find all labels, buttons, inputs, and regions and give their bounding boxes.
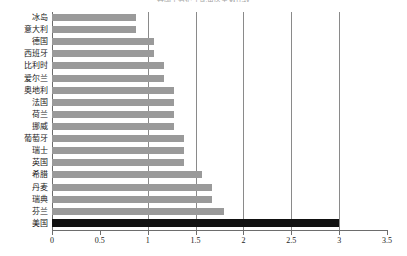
chart-title: 各国千名护士配备医生数比较 <box>0 0 407 2</box>
bar-row <box>52 121 387 133</box>
y-axis-label: 爱尔兰 <box>2 73 48 85</box>
bar <box>52 38 154 45</box>
bar-row <box>52 73 387 85</box>
y-axis-label: 挪威 <box>2 121 48 133</box>
x-tick-label: 0 <box>37 236 67 246</box>
x-tick-mark <box>387 231 388 235</box>
x-tick-label: 2.5 <box>276 236 306 246</box>
x-tick-mark <box>52 231 53 235</box>
y-axis-label: 法国 <box>2 97 48 109</box>
y-axis-label: 瑞典 <box>2 194 48 206</box>
bar <box>52 171 202 178</box>
y-axis-label: 奥地利 <box>2 85 48 97</box>
bar <box>52 50 154 57</box>
x-tick-mark <box>148 231 149 235</box>
bar-row <box>52 97 387 109</box>
bar-row <box>52 60 387 72</box>
bar <box>52 208 224 215</box>
y-axis-label: 比利时 <box>2 60 48 72</box>
bar <box>52 123 174 130</box>
bar <box>52 87 174 94</box>
bar <box>52 26 136 33</box>
bar <box>52 111 174 118</box>
bar <box>52 159 184 166</box>
y-axis-label: 葡萄牙 <box>2 133 48 145</box>
x-tick-mark <box>339 231 340 235</box>
bar <box>52 14 136 21</box>
bar <box>52 75 164 82</box>
y-axis-label: 美国 <box>2 218 48 230</box>
x-tick-label: 0.5 <box>85 236 115 246</box>
bar-highlighted <box>52 219 339 227</box>
bar-row <box>52 182 387 194</box>
bar <box>52 184 212 191</box>
bar <box>52 135 184 142</box>
x-axis-line <box>52 230 388 231</box>
y-axis-label: 冰岛 <box>2 12 48 24</box>
bar <box>52 196 212 203</box>
x-tick-label: 1 <box>133 236 163 246</box>
bar-row <box>52 24 387 36</box>
x-tick-mark <box>100 231 101 235</box>
y-axis-label: 荷兰 <box>2 109 48 121</box>
bar-row <box>52 133 387 145</box>
x-tick-mark <box>196 231 197 235</box>
bar-row <box>52 109 387 121</box>
bar <box>52 62 164 69</box>
bar-row <box>52 157 387 169</box>
y-axis-label: 西班牙 <box>2 48 48 60</box>
bar <box>52 147 184 154</box>
bar-row <box>52 36 387 48</box>
y-axis-label: 丹麦 <box>2 182 48 194</box>
plot-area <box>52 12 387 230</box>
x-tick-label: 2 <box>228 236 258 246</box>
bar-row <box>52 145 387 157</box>
bar-chart: 各国千名护士配备医生数比较 00.511.522.533.5 冰岛意大利德国西班… <box>0 0 407 256</box>
y-axis-label: 意大利 <box>2 24 48 36</box>
y-axis-label: 希腊 <box>2 169 48 181</box>
x-tick-label: 3 <box>324 236 354 246</box>
y-axis-label: 瑞士 <box>2 145 48 157</box>
x-tick-label: 3.5 <box>372 236 402 246</box>
bar-row <box>52 194 387 206</box>
x-tick-mark <box>243 231 244 235</box>
bar-row <box>52 169 387 181</box>
x-tick-label: 1.5 <box>181 236 211 246</box>
bar-row <box>52 12 387 24</box>
bar-row <box>52 206 387 218</box>
y-axis-label: 芬兰 <box>2 206 48 218</box>
x-tick-mark <box>291 231 292 235</box>
bar-row <box>52 218 387 230</box>
y-axis-label: 德国 <box>2 36 48 48</box>
y-axis-label: 英国 <box>2 157 48 169</box>
bar-row <box>52 85 387 97</box>
bar-row <box>52 48 387 60</box>
bar <box>52 99 174 106</box>
